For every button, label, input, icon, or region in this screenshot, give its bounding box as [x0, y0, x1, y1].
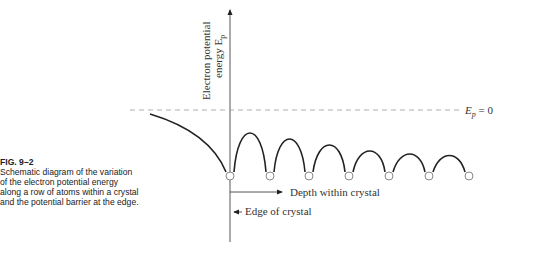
axis-label-line2: energy E: [212, 39, 224, 78]
periodic-potential: [234, 133, 465, 172]
atoms: [226, 172, 473, 180]
surface-barrier-curve: [150, 114, 226, 172]
energy-axis-label: Electron potential energy Ep: [200, 22, 227, 101]
zero-line-label: Ep = 0: [464, 104, 493, 119]
potential-energy-diagram: Electron potential energy Ep Ep = 0 Dept…: [0, 0, 535, 254]
svg-text:energy Ep: energy Ep: [212, 35, 227, 78]
edge-label: Edge of crystal: [245, 205, 312, 217]
depth-label: Depth within crystal: [290, 186, 380, 198]
axis-label-line1: Electron potential: [200, 22, 212, 101]
